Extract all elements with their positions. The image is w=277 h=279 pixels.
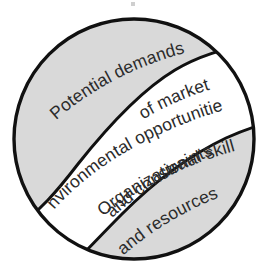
diagram-canvas: Potential demands of market Environmenta… <box>0 0 277 279</box>
three-band-circle-diagram: Potential demands of market Environmenta… <box>0 0 277 279</box>
scan-speck <box>131 2 135 6</box>
